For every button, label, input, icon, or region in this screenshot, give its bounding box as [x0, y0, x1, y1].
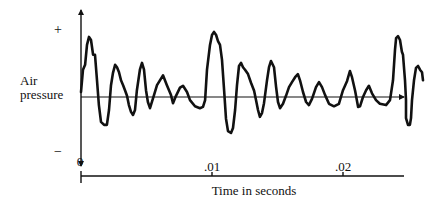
waveform-line [81, 32, 423, 133]
x-tick-label: .02 [335, 159, 351, 174]
x-tick-label: 0 [77, 154, 84, 169]
x-axis-label: Time in seconds [212, 183, 297, 198]
air-pressure-chart: 0.01.02 + − Air pressure Time in seconds [0, 0, 429, 218]
y-negative-label: − [54, 144, 62, 159]
y-axis-label-line-2: pressure [20, 87, 64, 102]
y-positive-label: + [54, 22, 62, 37]
x-ticks: 0.01.02 [77, 154, 351, 183]
x-tick-label: .01 [204, 159, 220, 174]
y-axis-label-line-1: Air [20, 73, 38, 88]
